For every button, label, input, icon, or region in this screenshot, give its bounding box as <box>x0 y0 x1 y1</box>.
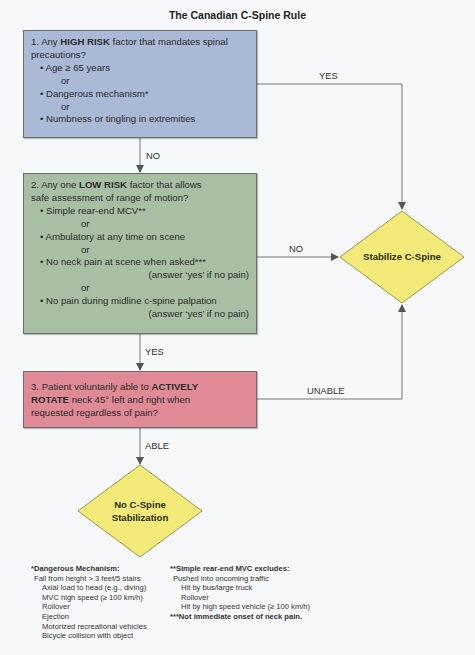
no-stabilization-text: No C-Spine Stabilization <box>88 499 192 524</box>
answer-note: (answer ‘yes’ if no pain) <box>31 269 249 282</box>
high-risk-item: • Age ≥ 65 years <box>31 62 249 75</box>
low-risk-item: • No neck pain at scene when asked*** <box>31 256 249 269</box>
low-risk-question: 2. Any one LOW RISK factor that allows <box>31 179 249 192</box>
no-stabilization-line2: Stabilization <box>88 512 192 525</box>
stabilize-cspine-text: Stabilize C-Spine <box>350 251 454 264</box>
footnote-item: Hit by bus/large truck <box>170 583 310 593</box>
high-risk-box: 1. Any HIGH RISK factor that mandates sp… <box>23 30 257 138</box>
low-risk-box: 2. Any one LOW RISK factor that allows s… <box>23 173 257 334</box>
or-text: or <box>31 282 249 295</box>
neck-pain-footnote: ***Not immediate onset of neck pain. <box>170 612 310 622</box>
able-label: ABLE <box>145 440 169 451</box>
high-risk-item: • Dangerous mechanism* <box>31 88 249 101</box>
footnote-item: Axial load to head (e.g., diving) <box>31 583 147 593</box>
low-risk-item: • Simple rear-end MCV** <box>31 205 249 218</box>
footnote-heading: **Simple rear-end MVC excludes: <box>170 564 310 574</box>
footnote-item: Bicycle collision with object <box>31 631 147 641</box>
no-stabilization-line1: No C-Spine <box>88 499 192 512</box>
rotate-question-end: requested regardless of pain? <box>31 407 249 420</box>
footnote-item: MVC high speed (≥ 100 km/h) <box>31 593 147 603</box>
no-label: NO <box>146 150 160 161</box>
high-risk-item: • Numbness or tingling in extremities <box>31 113 249 126</box>
or-text: or <box>31 244 249 257</box>
low-risk-item: • No pain during midline c-spine palpati… <box>31 295 249 308</box>
dangerous-mechanism-footnote: *Dangerous Mechanism: Fall from height >… <box>31 564 147 641</box>
high-risk-question-cont: precautions? <box>31 49 249 62</box>
footnote-item: Motorized recreational vehicles <box>31 622 147 632</box>
unable-label: UNABLE <box>307 385 345 396</box>
footnote-item: Fall from height > 3 feet/5 stairs <box>31 574 147 584</box>
or-text: or <box>31 75 249 88</box>
rotate-question-cont: ROTATE neck 45° left and right when <box>31 394 249 407</box>
or-text: or <box>31 101 249 114</box>
yes-label: YES <box>319 70 338 81</box>
low-risk-item: • Ambulatory at any time on scene <box>31 231 249 244</box>
or-text: or <box>31 218 249 231</box>
footnote-item: Rollover <box>170 593 310 603</box>
footnote-item: Hit by high speed vehicle (≥ 100 km/h) <box>170 602 310 612</box>
footnote-item: Pushed into oncoming traffic <box>170 574 310 584</box>
no-label: NO <box>289 243 303 254</box>
low-risk-question-cont: safe assessment of range of motion? <box>31 192 249 205</box>
high-risk-question: 1. Any HIGH RISK factor that mandates sp… <box>31 36 249 49</box>
footnote-item: Rollover <box>31 602 147 612</box>
footnote-item: Ejection <box>31 612 147 622</box>
footnote-heading: *Dangerous Mechanism: <box>31 564 147 574</box>
rotate-question: 3. Patient voluntarily able to ACTIVELY <box>31 381 249 394</box>
active-rotate-box: 3. Patient voluntarily able to ACTIVELY … <box>23 371 257 428</box>
answer-note: (answer ‘yes’ if no pain) <box>31 308 249 321</box>
yes-label: YES <box>145 346 164 357</box>
simple-rear-end-footnote: **Simple rear-end MVC excludes: Pushed i… <box>170 564 310 622</box>
